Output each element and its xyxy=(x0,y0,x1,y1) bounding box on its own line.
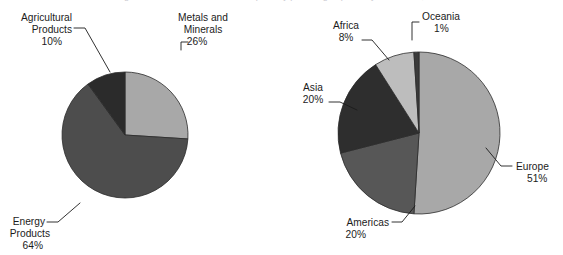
pie-chart-exports-by-destination: Africa 8% Oceania 1% Asia 20% Europe 51%… xyxy=(303,11,549,240)
pie-label-americas: Americas xyxy=(347,217,389,228)
pie-value-agricultural-products: 10% xyxy=(42,36,62,47)
pie-label-oceania: Oceania xyxy=(422,11,460,22)
pie-value-europe: 51% xyxy=(527,173,547,184)
pie-label-metals-and-minerals-line2: Minerals xyxy=(184,24,223,35)
pie-label-asia: Asia xyxy=(303,82,323,93)
pie-slice-metals-and-minerals[interactable] xyxy=(125,72,188,139)
pie-label-energy-products-line2: Products xyxy=(10,228,50,239)
pie-value-africa: 8% xyxy=(339,32,354,43)
pie-slice-europe[interactable] xyxy=(414,52,500,214)
pie-value-metals-and-minerals: 26% xyxy=(187,36,207,47)
pie-label-energy-products-line1: Energy xyxy=(13,216,46,227)
pie-value-energy-products: 64% xyxy=(23,240,43,251)
pie-value-americas: 20% xyxy=(346,229,366,240)
pie-label-europe: Europe xyxy=(516,161,549,172)
pie-label-africa: Africa xyxy=(333,20,359,31)
leader-line-africa xyxy=(362,40,389,60)
pie-label-agricultural-products-line2: Products xyxy=(32,24,72,35)
pie-value-asia: 20% xyxy=(303,94,323,105)
pie-charts-canvas: Agricultural Products 10% Metals and Min… xyxy=(0,0,563,255)
leader-line-agricultural-products xyxy=(74,28,110,72)
pie-label-metals-and-minerals-line1: Metals and xyxy=(178,12,228,23)
pie-label-agricultural-products-line1: Agricultural xyxy=(21,12,72,23)
pie-chart-exports-by-product-group: Agricultural Products 10% Metals and Min… xyxy=(10,12,228,251)
leader-line-oceania xyxy=(412,22,419,40)
figure-container: Figure 3 Canada's merchandise exports by… xyxy=(0,0,563,255)
pie-value-oceania: 1% xyxy=(434,23,449,34)
leader-line-energy-products xyxy=(47,203,80,222)
